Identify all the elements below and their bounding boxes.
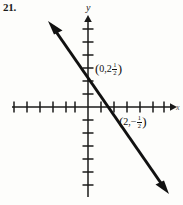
- label-minus-sign: −: [131, 116, 137, 127]
- y-intercept-point-label: (0,2 1 2 ): [95, 62, 122, 77]
- x-axis-label: x: [176, 104, 180, 112]
- coordinate-plane-figure: [0, 0, 183, 205]
- line-arrowhead-upper-left: [48, 21, 63, 35]
- y-axis-arrowhead: [84, 15, 92, 22]
- fraction-numerator: 1: [112, 62, 117, 69]
- line-arrowhead-lower-right: [156, 181, 170, 195]
- second-point-label: (2,− 1 2 ): [119, 115, 147, 130]
- y-axis-label: y: [86, 3, 90, 13]
- label-close-paren: ): [142, 114, 146, 129]
- x-axis: [12, 102, 177, 113]
- label-whole-number: 2: [107, 63, 112, 74]
- label-x-value: 0,: [99, 63, 107, 74]
- label-close-paren: ): [118, 61, 122, 76]
- mixed-fraction: 1 2: [112, 62, 117, 77]
- fraction-denominator: 2: [112, 69, 117, 77]
- y-axis: [83, 15, 94, 197]
- label-x-value: 2,: [123, 116, 131, 127]
